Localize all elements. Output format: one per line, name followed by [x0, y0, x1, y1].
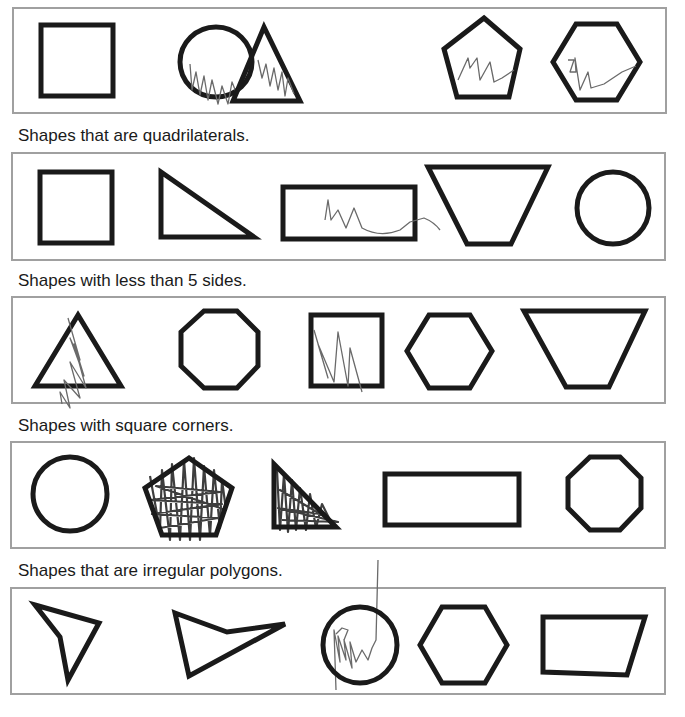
- circle-shape[interactable]: [577, 172, 649, 244]
- row-5-shapes: [35, 560, 645, 690]
- trapezoid-shape[interactable]: [524, 311, 645, 387]
- right-triangle-shape[interactable]: [161, 172, 254, 237]
- square-shape[interactable]: [41, 25, 113, 96]
- circle-shape[interactable]: [180, 27, 252, 104]
- pencil-scribble: [458, 58, 514, 82]
- circle-shape[interactable]: [323, 560, 397, 690]
- triangle-shape[interactable]: [35, 315, 121, 408]
- pencil-scribble: [60, 318, 86, 408]
- octagon-shape[interactable]: [181, 311, 258, 388]
- pentagon-shape[interactable]: [444, 18, 520, 97]
- pencil-scribble: [334, 560, 378, 690]
- pencil-scribble: [325, 200, 440, 234]
- row-3-shapes: [35, 311, 645, 408]
- square-shape[interactable]: [40, 172, 112, 243]
- trapezoid-shape[interactable]: [428, 167, 548, 244]
- hexagon-shape[interactable]: [407, 315, 492, 388]
- rectangle-shape[interactable]: [283, 187, 440, 239]
- right-triangle-shape[interactable]: [274, 464, 338, 532]
- arrow-quadrilateral-shape[interactable]: [175, 613, 285, 676]
- row-2-shapes: [40, 167, 649, 244]
- pentagon-shape[interactable]: [145, 458, 232, 540]
- pencil-scribble: [314, 330, 362, 392]
- hexagon-shape[interactable]: [553, 24, 640, 100]
- circle-shape[interactable]: [33, 457, 107, 531]
- square-shape[interactable]: [311, 315, 382, 392]
- irregular-quadrilateral-shape[interactable]: [543, 617, 645, 675]
- octagon-shape[interactable]: [568, 457, 641, 530]
- hexagon-shape[interactable]: [420, 607, 507, 683]
- row-1-shapes: [41, 18, 640, 104]
- row-4-shapes: [33, 457, 641, 540]
- rectangle-shape[interactable]: [385, 474, 519, 525]
- shapes-canvas: [0, 0, 685, 717]
- concave-quadrilateral-shape[interactable]: [35, 605, 99, 680]
- pencil-scribble: [258, 60, 294, 96]
